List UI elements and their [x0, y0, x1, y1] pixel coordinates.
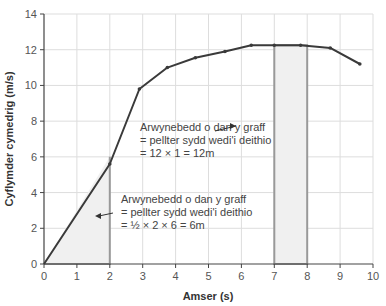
y-axis-label: Cyflymder cymedrig (m/s) — [3, 71, 15, 206]
y-tick-label: 10 — [25, 79, 37, 91]
data-point — [108, 162, 112, 166]
annotation-text: = pellter sydd wedi'i deithio — [121, 206, 252, 218]
data-point — [299, 43, 303, 47]
velocity-time-chart: 02468101214012345678910 Arwynebedd o dan… — [0, 0, 386, 306]
x-axis-label: Amser (s) — [183, 290, 234, 302]
data-point — [166, 66, 170, 70]
x-tick-label: 7 — [271, 270, 277, 282]
data-point — [328, 46, 332, 50]
data-point — [138, 87, 142, 91]
x-tick-label: 2 — [107, 270, 113, 282]
annotation-text: = pellter sydd wedi'i deithio — [140, 134, 271, 146]
y-tick-label: 12 — [25, 44, 37, 56]
annotation-text: = ½ × 2 × 6 = 6m — [121, 219, 205, 231]
x-tick-label: 10 — [367, 270, 379, 282]
y-tick-label: 2 — [31, 222, 37, 234]
annotation-text: Arwynebedd o dan y graff — [121, 193, 247, 205]
x-tick-label: 8 — [304, 270, 310, 282]
y-tick-label: 6 — [31, 151, 37, 163]
y-tick-label: 0 — [31, 258, 37, 270]
y-tick-label: 14 — [25, 8, 37, 20]
annotations: Arwynebedd o dan y graff= pellter sydd w… — [95, 121, 271, 231]
y-tick-label: 4 — [31, 187, 37, 199]
data-point — [249, 43, 253, 47]
x-tick-label: 3 — [140, 270, 146, 282]
data-point — [223, 50, 227, 54]
data-point — [194, 56, 198, 60]
x-tick-label: 5 — [205, 270, 211, 282]
annotation-text: = 12 × 1 = 12m — [140, 147, 214, 159]
data-point — [358, 62, 362, 66]
shaded-rectangle — [274, 45, 307, 264]
x-tick-label: 4 — [173, 270, 179, 282]
y-tick-label: 8 — [31, 115, 37, 127]
x-tick-label: 6 — [238, 270, 244, 282]
x-tick-label: 9 — [337, 270, 343, 282]
annotation-text: Arwynebedd o dan y graff — [140, 121, 266, 133]
x-tick-label: 0 — [41, 270, 47, 282]
x-tick-label: 1 — [74, 270, 80, 282]
data-point — [273, 43, 277, 47]
